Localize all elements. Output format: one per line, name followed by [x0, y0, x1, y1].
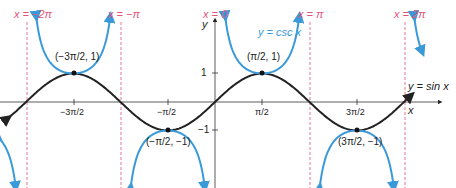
csc-label: y = csc x	[258, 26, 301, 38]
sin-label: y = sin x	[408, 80, 449, 92]
point-label-negpi2: (−π/2, −1)	[146, 136, 191, 147]
y-tick-neg1: −1	[198, 124, 209, 135]
point-label-pi2: (π/2, 1)	[247, 51, 280, 62]
x-axis-label: x	[408, 104, 414, 116]
asymptote-label-pi: x = π	[298, 8, 323, 20]
x-tick-neg3pi2: −3π/2	[60, 107, 84, 117]
x-tick-negpi2: −π/2	[157, 107, 176, 117]
graph-canvas	[0, 0, 456, 188]
y-tick-1: 1	[201, 67, 207, 78]
point-label-neg3pi2: (−3π/2, 1)	[55, 51, 99, 62]
asymptote-label-neg-2pi: x = −2π	[14, 8, 52, 20]
asymptote-label-neg-pi: x = −π	[108, 8, 140, 20]
y-axis-label: y	[202, 18, 208, 30]
x-tick-3pi2: 3π/2	[346, 107, 365, 117]
asymptote-lines	[27, 22, 405, 188]
x-tick-pi2: π/2	[255, 107, 269, 117]
asymptote-label-2pi: x = 2π	[394, 8, 426, 20]
point-label-3pi2: (3π/2, −1)	[338, 136, 382, 147]
